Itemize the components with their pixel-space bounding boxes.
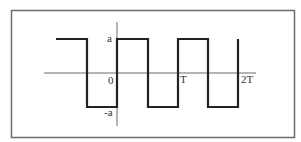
label-amplitude-positive: a [107, 32, 112, 44]
label-origin: 0 [108, 74, 114, 86]
square-wave-diagram: a 0 -a T 2T [0, 0, 301, 142]
label-double-period: 2T [241, 73, 254, 85]
label-period: T [180, 73, 187, 85]
label-amplitude-negative: -a [104, 106, 113, 118]
